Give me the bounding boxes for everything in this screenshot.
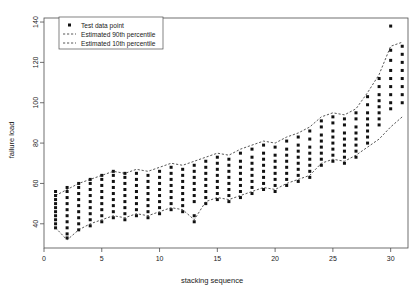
data-point [170,172,173,175]
data-point [274,154,277,157]
data-point [355,138,358,141]
data-point [274,190,277,193]
data-point [100,202,103,205]
data-point [193,176,196,179]
legend-box: Test data pointEstimated 90th percentile… [59,17,163,49]
data-point [239,160,242,163]
data-point [366,103,369,106]
data-point [54,198,57,201]
data-point [193,214,196,217]
x-tick-label: 20 [271,255,279,262]
data-point [123,212,126,215]
data-point [251,174,254,177]
data-point [100,214,103,217]
data-point [262,188,265,191]
data-point [170,202,173,205]
data-point [389,93,392,96]
data-point [378,93,381,96]
data-point [274,172,277,175]
data-point [181,168,184,171]
data-point [285,140,288,143]
x-tick-label: 0 [42,255,46,262]
data-point [170,184,173,187]
data-point [158,212,161,215]
data-point [216,168,219,171]
data-point [297,144,300,147]
data-point [274,184,277,187]
data-point [355,150,358,153]
y-tick-label: 40 [33,220,40,228]
data-point [123,176,126,179]
data-point [170,196,173,199]
data-point [147,210,150,213]
y-axis-title: failure load [7,122,16,159]
data-point [158,170,161,173]
data-point [343,132,346,135]
data-point [285,148,288,151]
data-point [262,152,265,155]
data-point [389,77,392,80]
data-point [181,192,184,195]
data-point [147,204,150,207]
data-point [123,188,126,191]
data-point [204,196,207,199]
data-point [100,184,103,187]
data-point [227,158,230,161]
data-point [158,176,161,179]
data-point [181,174,184,177]
data-point [54,206,57,209]
y-tick-label: 120 [33,56,40,68]
data-point [378,99,381,102]
data-point [355,144,358,147]
data-point [66,196,69,199]
data-point [389,49,392,52]
data-point [378,85,381,88]
data-point [54,190,57,193]
data-point [389,59,392,62]
data-point [274,166,277,169]
data-point [239,196,242,199]
data-point [77,198,80,201]
data-point [251,156,254,159]
data-point [389,107,392,110]
data-point [181,198,184,201]
legend-label: Estimated 90th percentile [81,31,156,39]
data-point [355,125,358,128]
data-point [135,202,138,205]
data-point [147,192,150,195]
data-point [239,172,242,175]
data-point [366,111,369,114]
data-point [216,192,219,195]
data-point [308,129,311,132]
data-point [262,144,265,147]
data-point [378,105,381,108]
data-point [320,119,323,122]
data-point [112,216,115,219]
data-point [89,206,92,209]
data-point [285,178,288,181]
data-point [227,200,230,203]
data-point [66,190,69,193]
data-point [262,176,265,179]
data-point [193,182,196,185]
data-point [251,186,254,189]
data-point [204,160,207,163]
data-point [193,170,196,173]
data-point [378,77,381,80]
data-point [251,162,254,165]
data-point [100,196,103,199]
data-point [378,117,381,120]
data-point [135,208,138,211]
data-point [378,123,381,126]
data-point [389,101,392,104]
data-point [54,214,57,217]
data-point [227,170,230,173]
data-point [193,164,196,167]
data-point [239,178,242,181]
data-point [112,192,115,195]
data-point [112,186,115,189]
data-point [331,115,334,118]
data-point [89,218,92,221]
data-point [239,190,242,193]
data-point [158,206,161,209]
